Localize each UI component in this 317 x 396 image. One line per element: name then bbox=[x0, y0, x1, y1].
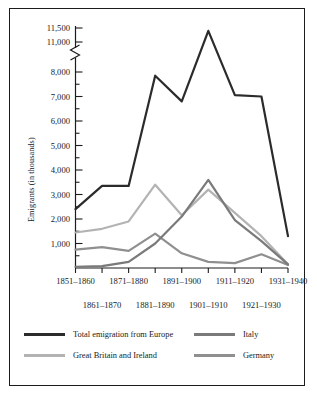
legend-color-swatch bbox=[194, 354, 235, 357]
axis-break-squiggle bbox=[71, 45, 80, 60]
legend-label: Great Britain and Ireland bbox=[73, 351, 157, 360]
emigration-line-chart-figure: Emigrants (in thousands) 1,0002,0003,000… bbox=[0, 0, 317, 396]
legend-item[interactable]: Italy bbox=[194, 330, 258, 339]
legend-item[interactable]: Great Britain and Ireland bbox=[24, 351, 194, 360]
legend-row: Total emigration from EuropeItaly bbox=[24, 330, 300, 339]
legend-item[interactable]: Germany bbox=[194, 351, 274, 360]
series-line-3 bbox=[76, 234, 289, 265]
legend-color-swatch bbox=[24, 354, 65, 357]
legend-label: Total emigration from Europe bbox=[73, 330, 173, 339]
chart-legend: Total emigration from EuropeItalyGreat B… bbox=[24, 330, 300, 372]
series-line-0 bbox=[76, 31, 289, 236]
legend-label: Italy bbox=[243, 330, 258, 339]
legend-color-swatch bbox=[194, 333, 235, 336]
legend-item[interactable]: Total emigration from Europe bbox=[24, 330, 194, 339]
legend-label: Germany bbox=[243, 351, 274, 360]
legend-color-swatch bbox=[24, 333, 65, 336]
legend-row: Great Britain and IrelandGermany bbox=[24, 351, 300, 360]
